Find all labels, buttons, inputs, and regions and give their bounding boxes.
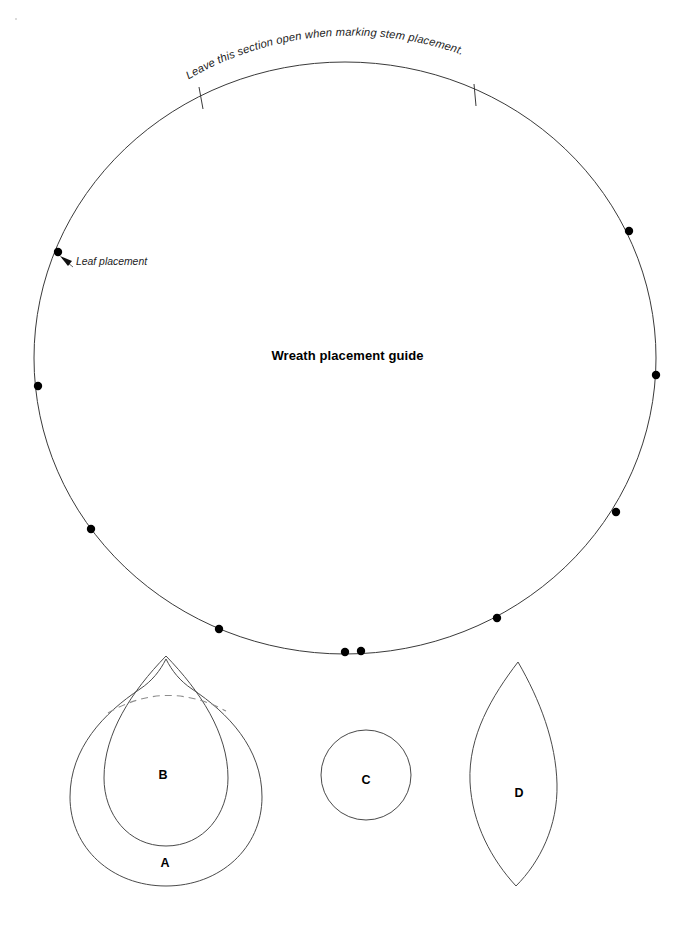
placement-dot — [54, 248, 62, 256]
template-shape-b — [104, 656, 228, 846]
arc-instruction-text: Leave this section open when marking ste… — [183, 26, 465, 82]
placement-dot — [612, 508, 620, 516]
page-title: Wreath placement guide — [0, 348, 695, 363]
leaf-placement-label: Leaf placement — [76, 256, 147, 267]
placement-dot — [34, 382, 42, 390]
shape-label-b: B — [158, 768, 167, 782]
template-shape-d — [470, 662, 557, 886]
placement-dot — [215, 625, 223, 633]
shape-label-a: A — [160, 856, 169, 870]
open-section-tick-left — [199, 87, 203, 109]
guide-drawing: Leave this section open when marking ste… — [0, 0, 695, 925]
shape-label-c: C — [361, 773, 370, 787]
placement-dot-group — [34, 227, 660, 656]
shape-label-d: D — [514, 786, 523, 800]
placement-dot — [357, 647, 365, 655]
placement-dot — [652, 371, 660, 379]
open-section-tick-right — [474, 84, 476, 106]
placement-dot — [625, 227, 633, 235]
arc-instruction-textpath: Leave this section open when marking ste… — [183, 26, 465, 82]
wreath-guide-sheet: Leave this section open when marking ste… — [0, 0, 695, 925]
placement-dot — [87, 525, 95, 533]
placement-dot — [493, 614, 501, 622]
placement-dot — [341, 648, 349, 656]
